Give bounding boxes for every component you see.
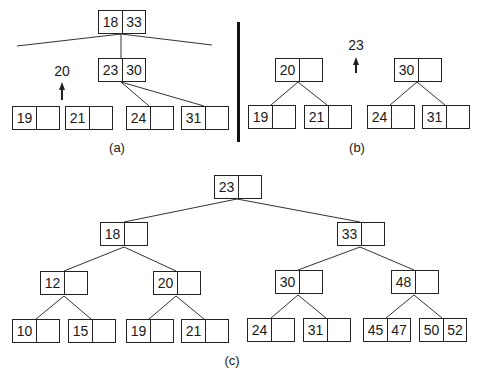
node-key: 33 (338, 223, 361, 245)
panel-caption-b: (b) (349, 140, 365, 155)
btree-leaf: 24 (126, 106, 174, 130)
node-key-empty (272, 106, 295, 128)
btree-leaf: 21 (304, 105, 352, 129)
btree-leaf: 21 (65, 106, 113, 130)
node-key: 31 (304, 319, 327, 341)
node-key-empty (205, 107, 228, 129)
btree-leaf: 19 (248, 105, 296, 129)
promoted-key: 20 (54, 63, 70, 79)
btree-leaf: 31 (422, 105, 470, 129)
btree-node: 20 (275, 58, 323, 82)
node-key-empty (238, 176, 261, 198)
node-key: 18 (101, 223, 124, 245)
promoted-key: 23 (348, 37, 364, 53)
btree-node: 23 30 (98, 58, 146, 82)
node-key-empty (177, 272, 200, 294)
panel-divider (237, 22, 240, 142)
node-key: 21 (66, 107, 89, 129)
node-key: 20 (276, 59, 299, 81)
node-key: 12 (41, 272, 64, 294)
node-key: 21 (305, 106, 328, 128)
node-key-empty (89, 107, 112, 129)
btree-leaf: 19 (12, 106, 60, 130)
node-key-empty (92, 320, 115, 342)
btree-root: 23 (214, 175, 262, 199)
btree-node: 18 (100, 222, 148, 246)
btree-node: 20 (153, 271, 201, 295)
btree-leaf: 31 (303, 318, 351, 342)
node-key: 18 (99, 11, 122, 33)
node-key-empty (299, 271, 322, 293)
node-key: 21 (182, 320, 205, 342)
btree-node: 30 (394, 58, 442, 82)
btree-node: 12 (40, 271, 88, 295)
node-key-empty (328, 106, 351, 128)
node-key: 48 (392, 271, 415, 293)
panel-caption-c: (c) (224, 353, 239, 368)
node-key-empty (327, 319, 350, 341)
node-key: 23 (215, 176, 238, 198)
node-key: 24 (127, 107, 150, 129)
btree-node: 18 33 (98, 10, 146, 34)
node-key: 31 (182, 107, 205, 129)
node-key: 50 (420, 319, 443, 341)
node-key-empty (391, 106, 414, 128)
node-key-empty (124, 223, 147, 245)
node-key: 15 (69, 320, 92, 342)
node-key-empty (150, 107, 173, 129)
btree-leaf: 21 (181, 319, 229, 343)
node-key-empty (415, 271, 438, 293)
node-key: 19 (249, 106, 272, 128)
node-key-empty (446, 106, 469, 128)
btree-node: 33 (337, 222, 385, 246)
node-key: 33 (122, 11, 145, 33)
node-key: 30 (122, 59, 145, 81)
node-key-empty (361, 223, 384, 245)
btree-leaf: 24 (247, 318, 295, 342)
node-key: 23 (99, 59, 122, 81)
node-key: 24 (248, 319, 271, 341)
node-key-empty (64, 272, 87, 294)
node-key-empty (271, 319, 294, 341)
btree-node: 48 (391, 270, 439, 294)
node-key-empty (205, 320, 228, 342)
node-key: 31 (423, 106, 446, 128)
node-key: 47 (387, 319, 410, 341)
panel-caption-a: (a) (109, 140, 125, 155)
node-key: 20 (154, 272, 177, 294)
btree-leaf: 19 (126, 319, 174, 343)
node-key-empty (150, 320, 173, 342)
node-key: 19 (13, 107, 36, 129)
node-key: 24 (368, 106, 391, 128)
btree-node: 30 (275, 270, 323, 294)
node-key-empty (36, 320, 59, 342)
node-key-empty (299, 59, 322, 81)
btree-leaf: 15 (68, 319, 116, 343)
node-key-empty (418, 59, 441, 81)
btree-leaf: 31 (181, 106, 229, 130)
node-key: 10 (13, 320, 36, 342)
btree-leaf: 50 52 (419, 318, 467, 342)
node-key: 45 (364, 319, 387, 341)
node-key: 52 (443, 319, 466, 341)
node-key-empty (36, 107, 59, 129)
node-key: 30 (395, 59, 418, 81)
btree-leaf: 10 (12, 319, 60, 343)
node-key: 19 (127, 320, 150, 342)
btree-leaf: 45 47 (363, 318, 411, 342)
node-key: 30 (276, 271, 299, 293)
btree-leaf: 24 (367, 105, 415, 129)
